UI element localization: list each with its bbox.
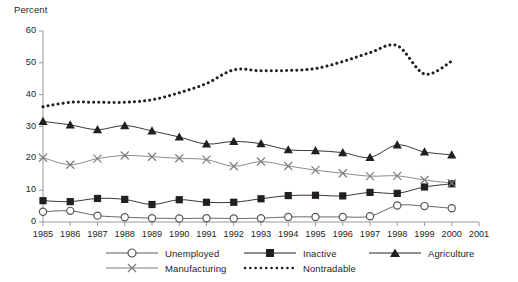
x-axis-tick-label: 1991 — [193, 229, 221, 239]
x-axis-tick-label: 1996 — [329, 229, 357, 239]
legend-row-top: Unemployed Inactive Agriculture — [0, 245, 518, 261]
y-axis-tick-label: 10 — [8, 184, 36, 194]
legend-symbol-triangle-filled-icon — [368, 246, 422, 260]
x-axis-tick-label: 1995 — [302, 229, 330, 239]
legend-label-agriculture: Agriculture — [428, 248, 475, 259]
series-unemployed — [43, 205, 452, 219]
legend-label-nontradable: Nontradable — [303, 263, 356, 274]
x-axis-tick-label: 2000 — [438, 229, 466, 239]
legend-row-bottom: Manufacturing Nontradable — [0, 260, 518, 276]
legend-symbol-square-filled-icon — [243, 246, 297, 260]
x-axis-tick-label: 1989 — [138, 229, 166, 239]
x-axis-tick-label: 1993 — [247, 229, 275, 239]
chart-plot-area — [0, 0, 518, 243]
legend-item-inactive[interactable]: Inactive — [243, 245, 337, 261]
chart-legend: Unemployed Inactive Agriculture — [0, 243, 518, 282]
x-axis-tick-label: 1992 — [220, 229, 248, 239]
legend-symbol-dotted-line-icon — [243, 261, 297, 275]
y-axis-tick-label: 40 — [8, 89, 36, 99]
series-inactive — [43, 184, 452, 205]
legend-item-agriculture[interactable]: Agriculture — [368, 245, 475, 261]
x-axis-tick-label: 1986 — [56, 229, 84, 239]
series-markers-manufacturing — [39, 151, 456, 187]
x-axis-tick-label: 1985 — [29, 229, 57, 239]
series-nontradable — [43, 45, 452, 107]
legend-symbol-circle-open-icon — [105, 246, 159, 260]
series-markers-unemployed — [39, 202, 455, 222]
legend-label-inactive: Inactive — [303, 248, 337, 259]
x-axis-tick-label: 1999 — [411, 229, 439, 239]
chart-series-layer — [38, 45, 456, 222]
x-axis-tick-label: 1994 — [274, 229, 302, 239]
series-agriculture — [43, 121, 452, 157]
y-axis-tick-label: 20 — [8, 152, 36, 162]
x-axis-tick-label: 1987 — [84, 229, 112, 239]
legend-symbol-cross-x-icon — [105, 261, 159, 275]
x-axis-tick-label: 2001 — [465, 229, 493, 239]
chart-container: Percent Unemployed Inactive — [0, 0, 518, 282]
legend-item-unemployed[interactable]: Unemployed — [105, 245, 219, 261]
series-manufacturing — [43, 155, 452, 183]
y-axis-tick-label: 0 — [8, 216, 36, 226]
x-axis-tick-label: 1990 — [165, 229, 193, 239]
y-axis-tick-label: 50 — [8, 57, 36, 67]
x-axis-tick-label: 1998 — [383, 229, 411, 239]
legend-label-manufacturing: Manufacturing — [165, 263, 227, 274]
x-axis-tick-label: 1997 — [356, 229, 384, 239]
legend-label-unemployed: Unemployed — [165, 248, 219, 259]
y-axis-tick-label: 60 — [8, 25, 36, 35]
series-markers-inactive — [39, 180, 455, 208]
y-axis-tick-label: 30 — [8, 121, 36, 131]
legend-item-nontradable[interactable]: Nontradable — [243, 260, 356, 276]
x-axis-tick-label: 1988 — [111, 229, 139, 239]
legend-item-manufacturing[interactable]: Manufacturing — [105, 260, 227, 276]
